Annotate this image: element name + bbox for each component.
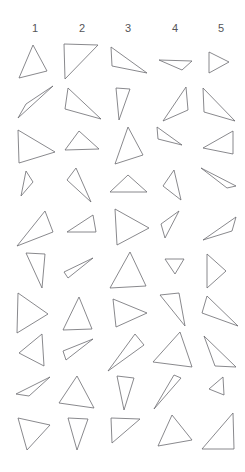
triangle-r9c5	[209, 377, 224, 395]
triangle-r5c4	[161, 211, 179, 238]
triangle-r2c4	[163, 87, 188, 121]
triangle-r1c1	[19, 45, 47, 78]
triangle-r6c5	[207, 254, 226, 288]
triangle-r10c4	[158, 415, 192, 446]
triangle-r10c5	[202, 413, 234, 449]
triangle-r4c4	[163, 170, 181, 200]
triangle-r8c2	[63, 339, 93, 360]
triangle-r10c1	[18, 418, 50, 450]
triangle-r5c3	[115, 209, 149, 245]
triangle-r4c5	[201, 168, 236, 188]
triangle-r7c4	[160, 293, 185, 326]
triangle-canvas	[0, 0, 245, 472]
triangle-r6c4	[165, 259, 184, 274]
triangle-r2c1	[18, 86, 53, 118]
triangle-r7c5	[202, 296, 238, 326]
triangle-r6c3	[110, 252, 146, 288]
triangle-r1c3	[111, 47, 147, 73]
triangle-r2c5	[203, 88, 235, 121]
triangle-r3c1	[18, 130, 55, 163]
triangle-r1c5	[209, 52, 229, 73]
triangle-r2c2	[65, 88, 101, 119]
triangle-r7c1	[17, 293, 48, 333]
triangle-r9c2	[59, 376, 94, 408]
triangle-r8c3	[108, 334, 144, 371]
triangle-r4c2	[67, 168, 91, 202]
triangle-r8c1	[19, 334, 44, 366]
triangle-r1c4	[159, 60, 192, 70]
triangle-grid-sheet: 12345	[0, 0, 245, 472]
triangle-r5c1	[17, 211, 53, 246]
triangle-r3c3	[115, 127, 143, 164]
triangle-r7c2	[63, 297, 92, 330]
triangle-r4c1	[21, 171, 33, 196]
triangle-r8c4	[153, 332, 192, 367]
triangle-r3c4	[157, 127, 182, 145]
triangle-r9c1	[16, 377, 50, 396]
triangle-r6c1	[26, 253, 45, 288]
triangle-r2c3	[116, 88, 130, 120]
triangle-r4c3	[110, 175, 147, 192]
triangle-r10c3	[111, 418, 140, 443]
triangle-r1c2	[64, 44, 98, 79]
triangle-r5c5	[203, 217, 236, 240]
triangle-r7c3	[113, 299, 147, 327]
triangle-r8c5	[204, 336, 236, 367]
triangle-r3c5	[203, 131, 233, 154]
triangle-r9c3	[117, 376, 134, 410]
triangle-r9c4	[154, 375, 181, 409]
triangle-r5c2	[67, 215, 96, 232]
triangle-r10c2	[68, 418, 88, 450]
triangle-r6c2	[64, 258, 93, 278]
triangle-r3c2	[65, 131, 99, 150]
